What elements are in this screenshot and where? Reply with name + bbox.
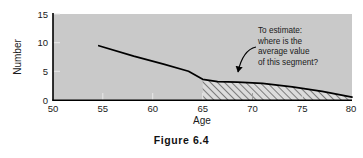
x-tick-label-80: 80 <box>346 103 357 114</box>
x-tick-label-60: 60 <box>147 103 158 114</box>
annotation-line-3: average value <box>258 47 310 56</box>
x-tick-label-70: 70 <box>247 103 258 114</box>
figure-caption: Figure 6.4 <box>0 134 363 146</box>
figure-container: 15 10 5 0 50 55 60 65 70 75 80 Age Numbe… <box>0 0 363 158</box>
x-tick-label-65: 65 <box>197 103 208 114</box>
y-tick-label-5: 5 <box>43 66 48 77</box>
annotation-line-2: where is the <box>257 37 303 46</box>
y-axis-title: Number <box>12 39 23 75</box>
x-axis-title: Age <box>193 115 211 126</box>
annotation-line-4: of this segment? <box>258 58 319 67</box>
annotation-line-1: To estimate: <box>258 26 302 35</box>
x-tick-label-50: 50 <box>48 103 59 114</box>
y-tick-label-10: 10 <box>37 37 48 48</box>
chart-canvas: 15 10 5 0 50 55 60 65 70 75 80 Age Numbe… <box>0 0 363 130</box>
y-tick-label-15: 15 <box>37 9 48 20</box>
x-tick-label-75: 75 <box>297 103 308 114</box>
x-tick-label-55: 55 <box>98 103 109 114</box>
